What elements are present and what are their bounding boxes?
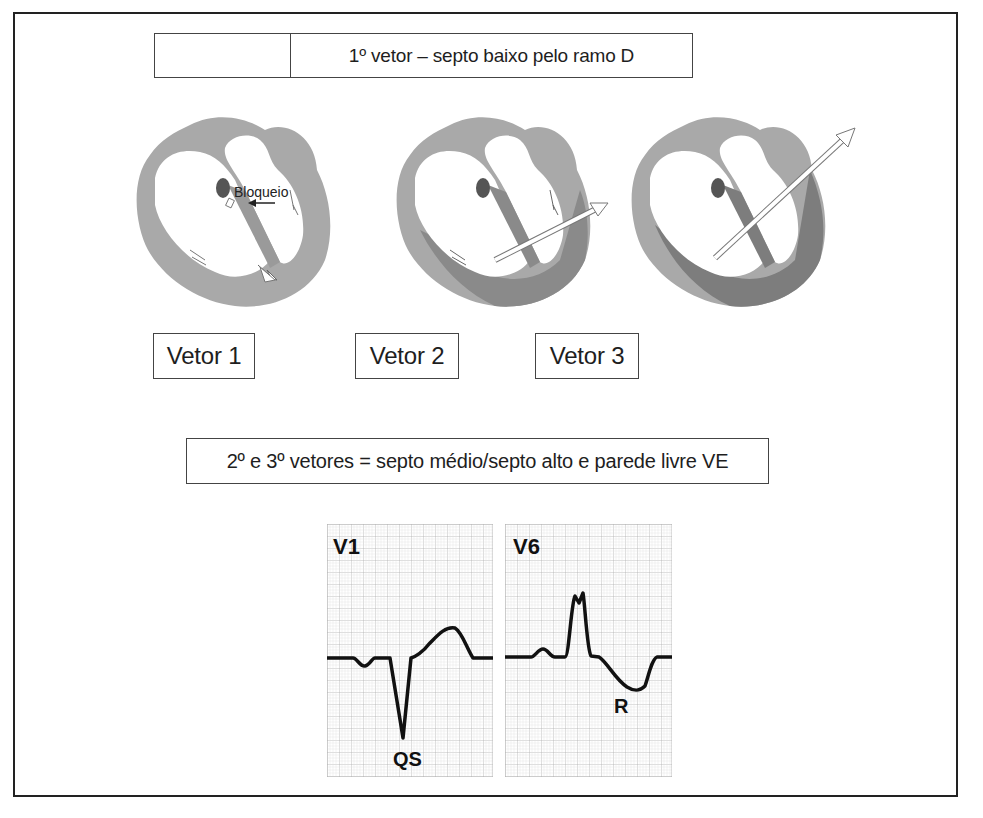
caption-middle: 2º e 3º vetores = septo médio/septo alto…	[186, 438, 769, 484]
av-node	[711, 178, 725, 198]
ecg-panel-v1: V1 QS	[327, 524, 493, 777]
heart-vetor-2	[380, 110, 620, 310]
ecg-panel-v6: V6 R	[505, 524, 672, 777]
heart-vetor-3	[610, 95, 870, 310]
wave-label-qs: QS	[393, 748, 422, 770]
label-vetor-1: Vetor 1	[153, 333, 255, 379]
av-node	[216, 178, 230, 198]
lead-label-v1: V1	[333, 534, 360, 559]
lead-label-v6: V6	[513, 534, 540, 559]
av-node	[476, 178, 490, 198]
caption-main-top: 1º vetor – septo baixo pelo ramo D	[290, 33, 693, 78]
label-vetor-2: Vetor 2	[355, 333, 459, 379]
heart-vetor-1: Bloqueio	[120, 110, 350, 310]
bloqueio-label: Bloqueio	[234, 184, 289, 200]
wave-label-r: R	[614, 695, 629, 717]
label-vetor-3: Vetor 3	[535, 333, 639, 379]
